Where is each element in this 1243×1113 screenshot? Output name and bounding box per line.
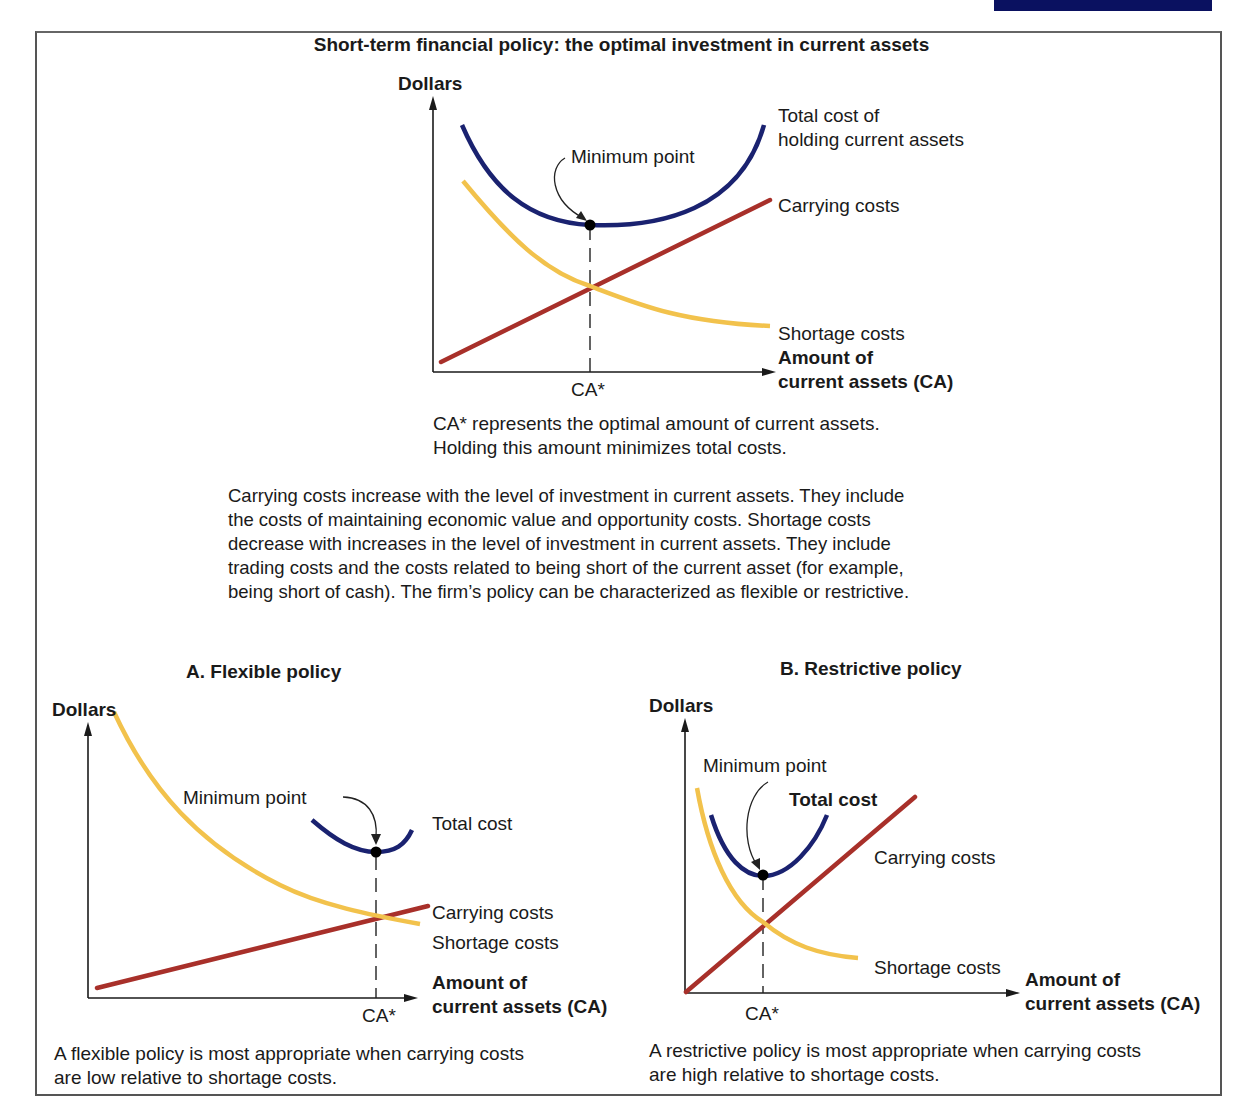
panel-a-y-arrow-icon (84, 722, 92, 736)
main-minimum-point-marker (585, 220, 596, 231)
panel-b-caption-line1: A restrictive policy is most appropriate… (649, 1039, 1141, 1062)
main-y-arrow-icon (429, 96, 437, 110)
panel-b-legend-total: Total cost (789, 788, 877, 811)
panel-b-legend-shortage: Shortage costs (874, 956, 1001, 979)
panel-a-x-tick-ca-star: CA* (362, 1004, 396, 1027)
main-shortage-costs-curve (463, 181, 770, 326)
panel-b-x-tick-ca-star: CA* (745, 1002, 779, 1025)
main-legend-shortage: Shortage costs (778, 322, 905, 345)
main-legend-carrying: Carrying costs (778, 194, 899, 217)
panel-a-title: A. Flexible policy (186, 660, 341, 683)
panel-b-y-arrow-icon (681, 718, 689, 732)
main-total-cost-curve (462, 125, 764, 225)
panel-b-minimum-point-label: Minimum point (703, 754, 827, 777)
panel-a-minimum-point-label: Minimum point (183, 786, 307, 809)
panel-b-total-cost-curve (711, 815, 827, 876)
description-paragraph: Carrying costs increase with the level o… (228, 484, 1008, 604)
panel-a-legend-total: Total cost (432, 812, 512, 835)
panel-a-annotation-arrow (343, 797, 376, 838)
main-x-arrow-icon (762, 368, 776, 376)
main-minimum-point-label: Minimum point (571, 145, 695, 168)
panel-b-annotation-arrowhead-icon (751, 858, 760, 870)
panel-a-carrying-costs-line (97, 906, 428, 988)
panel-b-legend-carrying: Carrying costs (874, 846, 995, 869)
main-annotation-arrowhead-icon (576, 211, 587, 221)
panel-b-minimum-point-marker (758, 870, 769, 881)
description-line-5: being short of cash). The firm’s policy … (228, 580, 1008, 604)
description-line-3: decrease with increases in the level of … (228, 532, 1008, 556)
panel-a-legend-shortage: Shortage costs (432, 931, 559, 954)
panel-a-x-axis-label-line2: current assets (CA) (432, 995, 607, 1018)
description-line-2: the costs of maintaining economic value … (228, 508, 1008, 532)
main-x-axis-label-line2: current assets (CA) (778, 370, 953, 393)
panel-b-title: B. Restrictive policy (780, 657, 962, 680)
panel-a-total-cost-curve (312, 820, 412, 852)
panel-a-annotation-arrowhead-icon (371, 834, 381, 845)
main-y-axis-label: Dollars (398, 72, 462, 95)
panel-b-annotation-arrow (747, 782, 768, 865)
panel-a-x-axis-label-line1: Amount of (432, 971, 527, 994)
description-line-1: Carrying costs increase with the level o… (228, 484, 1008, 508)
panel-a-caption-line2: are low relative to shortage costs. (54, 1066, 337, 1089)
panel-a-y-axis-label: Dollars (52, 698, 116, 721)
panel-a-x-arrow-icon (404, 994, 418, 1002)
panel-a-caption-line1: A flexible policy is most appropriate wh… (54, 1042, 524, 1065)
panel-b-y-axis-label: Dollars (649, 694, 713, 717)
panel-b-x-axis-label-line1: Amount of (1025, 968, 1120, 991)
panel-a-axes (88, 730, 410, 998)
panel-a-legend-carrying: Carrying costs (432, 901, 553, 924)
main-caption-line1: CA* represents the optimal amount of cur… (433, 412, 880, 435)
main-x-tick-ca-star: CA* (571, 378, 605, 401)
panel-a-minimum-point-marker (371, 847, 382, 858)
main-legend-total-line2: holding current assets (778, 128, 964, 151)
panel-b-x-arrow-icon (1006, 989, 1020, 997)
main-x-axis-label-line1: Amount of (778, 346, 873, 369)
description-line-4: trading costs and the costs related to b… (228, 556, 1008, 580)
main-caption-line2: Holding this amount minimizes total cost… (433, 436, 787, 459)
panel-b-x-axis-label-line2: current assets (CA) (1025, 992, 1200, 1015)
panel-b-caption-line2: are high relative to shortage costs. (649, 1063, 939, 1086)
main-legend-total-line1: Total cost of (778, 104, 879, 127)
